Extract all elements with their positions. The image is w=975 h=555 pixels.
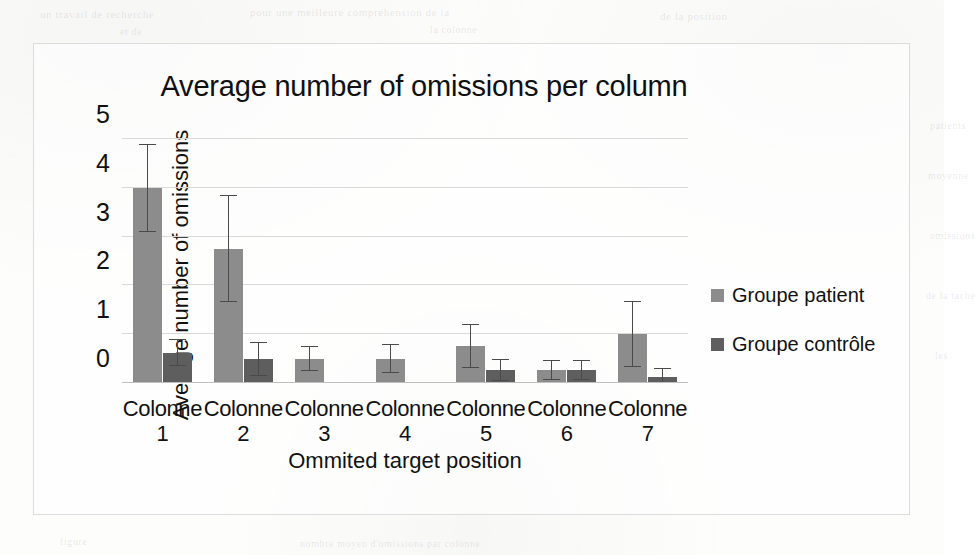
category-label-number: 4 xyxy=(365,422,446,447)
x-axis-category-label: Colonne6 xyxy=(526,397,607,446)
error-bar-cap-top xyxy=(624,301,641,302)
error-bar xyxy=(581,360,582,380)
category-label-number: 1 xyxy=(122,422,203,447)
chart-legend: Groupe patientGroupe contrôle xyxy=(711,284,906,382)
error-bar-cap-bottom xyxy=(382,372,399,373)
legend-label: Groupe patient xyxy=(732,284,864,307)
error-bar-cap-bottom xyxy=(624,366,641,367)
page-bleed-text: omissions xyxy=(930,230,975,241)
page-bleed-text: de la position xyxy=(660,10,728,22)
category-label-number: 3 xyxy=(284,422,365,447)
error-bar-cap-top xyxy=(543,360,560,361)
x-axis-line xyxy=(122,382,688,383)
error-bar-cap-top xyxy=(139,144,156,145)
y-axis-tick-label: 1 xyxy=(96,297,110,322)
legend-swatch-icon xyxy=(711,338,724,351)
category-label-word: Colonne xyxy=(446,396,525,421)
error-bar-cap-bottom xyxy=(169,365,186,366)
error-bar-cap-top xyxy=(382,344,399,345)
legend-item[interactable]: Groupe contrôle xyxy=(711,333,906,356)
error-bar xyxy=(470,324,471,368)
error-bar-cap-bottom xyxy=(301,370,318,371)
page-bleed-text: de la tache xyxy=(926,290,975,301)
x-axis-category-label: Colonne1 xyxy=(122,397,203,446)
error-bar-cap-bottom xyxy=(543,379,560,380)
error-bar-cap-top xyxy=(301,346,318,347)
x-axis-title: Ommited target position xyxy=(122,448,688,474)
category-label-word: Colonne xyxy=(365,396,444,421)
error-bar-cap-top xyxy=(250,342,267,343)
y-axis-tick-label: 2 xyxy=(96,248,110,273)
error-bar xyxy=(177,339,178,366)
page-bleed-text: et de xyxy=(120,26,142,37)
error-bar-cap-top xyxy=(462,324,479,325)
error-bar xyxy=(500,359,501,380)
error-bar-cap-bottom xyxy=(573,379,590,380)
y-axis-tick-label: 0 xyxy=(96,346,110,371)
error-bar-cap-top xyxy=(220,195,237,196)
bar-group xyxy=(295,139,354,383)
bar-group xyxy=(537,139,596,383)
bar-group xyxy=(618,139,677,383)
category-label-word: Colonne xyxy=(285,396,364,421)
error-bar-cap-top xyxy=(573,360,590,361)
error-bar xyxy=(147,144,148,232)
error-bar xyxy=(258,342,259,376)
error-bar-cap-bottom xyxy=(220,301,237,302)
error-bar xyxy=(390,344,391,373)
y-axis-tick-label: 3 xyxy=(96,199,110,224)
page-bleed-text: pour une meilleure compréhension de la xyxy=(250,6,450,18)
error-bar xyxy=(551,360,552,380)
x-axis-category-label: Colonne2 xyxy=(203,397,284,446)
bar-group xyxy=(214,139,273,383)
error-bar xyxy=(228,195,229,302)
page-bleed-text: un travail de recherche xyxy=(40,8,154,20)
page-bleed-text: nombre moyen d'omissions par colonne xyxy=(300,538,481,549)
page-bleed-text: moyenne xyxy=(928,170,969,181)
category-label-number: 6 xyxy=(526,422,607,447)
category-label-word: Colonne xyxy=(608,396,687,421)
x-axis-category-label: Colonne5 xyxy=(445,397,526,446)
page-bleed-text: les xyxy=(935,350,948,361)
bar-group xyxy=(376,139,435,383)
error-bar-cap-bottom xyxy=(492,380,509,381)
x-axis-category-label: Colonne3 xyxy=(284,397,365,446)
error-bar-cap-top xyxy=(654,368,671,369)
error-bar-cap-bottom xyxy=(139,231,156,232)
x-axis-category-label: Colonne4 xyxy=(365,397,446,446)
legend-swatch-icon xyxy=(711,289,724,302)
category-label-number: 2 xyxy=(203,422,284,447)
error-bar-cap-bottom xyxy=(250,375,267,376)
chart-title: Average number of omissions per column xyxy=(34,70,814,103)
x-axis-category-label: Colonne7 xyxy=(607,397,688,446)
page-bleed-text: figure xyxy=(60,536,87,547)
category-label-word: Colonne xyxy=(527,396,606,421)
error-bar xyxy=(662,368,663,383)
page-bleed-text: la colonne xyxy=(430,24,477,35)
plot-area: 012345 Colonne1Colonne2Colonne3Colonne4C… xyxy=(122,139,688,383)
bar-group xyxy=(456,139,515,383)
error-bar xyxy=(632,301,633,367)
category-label-word: Colonne xyxy=(204,396,283,421)
y-axis-tick-label: 4 xyxy=(96,150,110,175)
figure-frame: Average number of omissions per column A… xyxy=(33,43,910,515)
category-label-word: Colonne xyxy=(123,396,202,421)
page-bleed-text: patients xyxy=(930,120,966,131)
category-label-number: 5 xyxy=(445,422,526,447)
error-bar-cap-bottom xyxy=(462,367,479,368)
error-bar xyxy=(309,346,310,370)
error-bar-cap-top xyxy=(169,339,186,340)
legend-label: Groupe contrôle xyxy=(732,333,875,356)
bar-group xyxy=(133,139,192,383)
legend-item[interactable]: Groupe patient xyxy=(711,284,906,307)
error-bar-cap-top xyxy=(492,359,509,360)
y-axis-tick-label: 5 xyxy=(96,102,110,127)
category-label-number: 7 xyxy=(607,422,688,447)
